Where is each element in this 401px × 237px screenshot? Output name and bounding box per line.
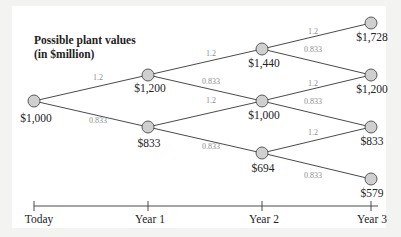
factor-y1d-down: 0.833 — [202, 142, 220, 151]
value-today: $1,000 — [20, 112, 52, 124]
timeline-label-today: Today — [25, 213, 54, 225]
factor-y2dd-down: 0.833 — [304, 171, 322, 180]
value-y3-uuu: $1,728 — [356, 31, 388, 43]
factor-y2ud-up: 1.2 — [308, 79, 318, 88]
value-y1-down: $833 — [138, 137, 161, 149]
value-y1-up: $1,200 — [134, 82, 166, 94]
value-y2-dd: $694 — [252, 162, 275, 174]
factor-y2uu-up: 1.2 — [308, 27, 318, 36]
node-y3-uud — [365, 69, 377, 81]
value-y2-uu: $1,440 — [248, 57, 280, 69]
value-y2-ud: $1,000 — [248, 109, 280, 121]
node-y3-ddd — [365, 173, 377, 185]
factor-today-down: 0.833 — [89, 116, 107, 125]
node-y3-udd — [365, 121, 377, 133]
factor-y2uu-down: 0.833 — [304, 45, 322, 54]
factor-y2dd-up: 1.2 — [308, 128, 318, 137]
edge-y1d-up — [148, 101, 262, 127]
node-y2-ud — [256, 95, 268, 107]
node-y1-up — [142, 69, 154, 81]
value-y3-ddd: $579 — [361, 187, 384, 199]
timeline-label-year-3: Year 3 — [357, 213, 387, 225]
timeline-axis — [34, 201, 378, 211]
timeline-label-year-2: Year 2 — [249, 213, 279, 225]
factor-y2ud-down: 0.833 — [304, 97, 322, 106]
factor-y1u-down: 0.833 — [202, 77, 220, 86]
node-y3-uuu — [365, 17, 377, 29]
binomial-tree — [0, 0, 401, 237]
tree-nodes — [28, 17, 377, 185]
edge-y1u-up — [148, 49, 262, 75]
edge-today-up — [34, 75, 148, 101]
timeline-label-year-1: Year 1 — [135, 213, 165, 225]
value-y3-udd: $833 — [361, 135, 384, 147]
node-y2-uu — [256, 43, 268, 55]
node-y1-down — [142, 121, 154, 133]
node-today — [28, 95, 40, 107]
value-y3-uud: $1,200 — [356, 83, 388, 95]
factor-today-up: 1.2 — [93, 73, 103, 82]
node-y2-dd — [256, 147, 268, 159]
factor-y1d-up: 1.2 — [206, 96, 216, 105]
factor-y1u-up: 1.2 — [206, 49, 216, 58]
